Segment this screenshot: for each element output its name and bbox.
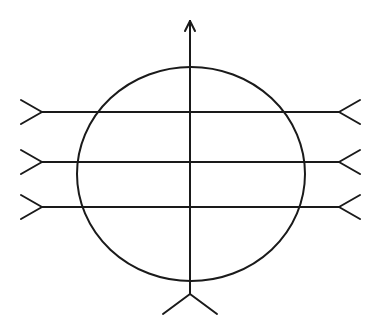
fletch-right-lower <box>339 162 360 174</box>
diagram-svg <box>0 0 381 336</box>
fletch-right-upper <box>339 100 360 112</box>
fletch-right-lower <box>339 112 360 124</box>
fletch-left-upper <box>21 150 42 162</box>
diagram-canvas <box>0 0 381 336</box>
fletch-right-upper <box>339 150 360 162</box>
fletch-left-upper <box>21 100 42 112</box>
fletch-left-lower <box>21 112 42 124</box>
fletch-left-upper <box>21 195 42 207</box>
vertical-arrow <box>163 21 217 314</box>
fletch-bottom-right <box>190 294 217 314</box>
fletch-bottom-left <box>163 294 190 314</box>
fletch-right-upper <box>339 195 360 207</box>
fletch-left-lower <box>21 162 42 174</box>
fletch-left-lower <box>21 207 42 219</box>
fletch-right-lower <box>339 207 360 219</box>
